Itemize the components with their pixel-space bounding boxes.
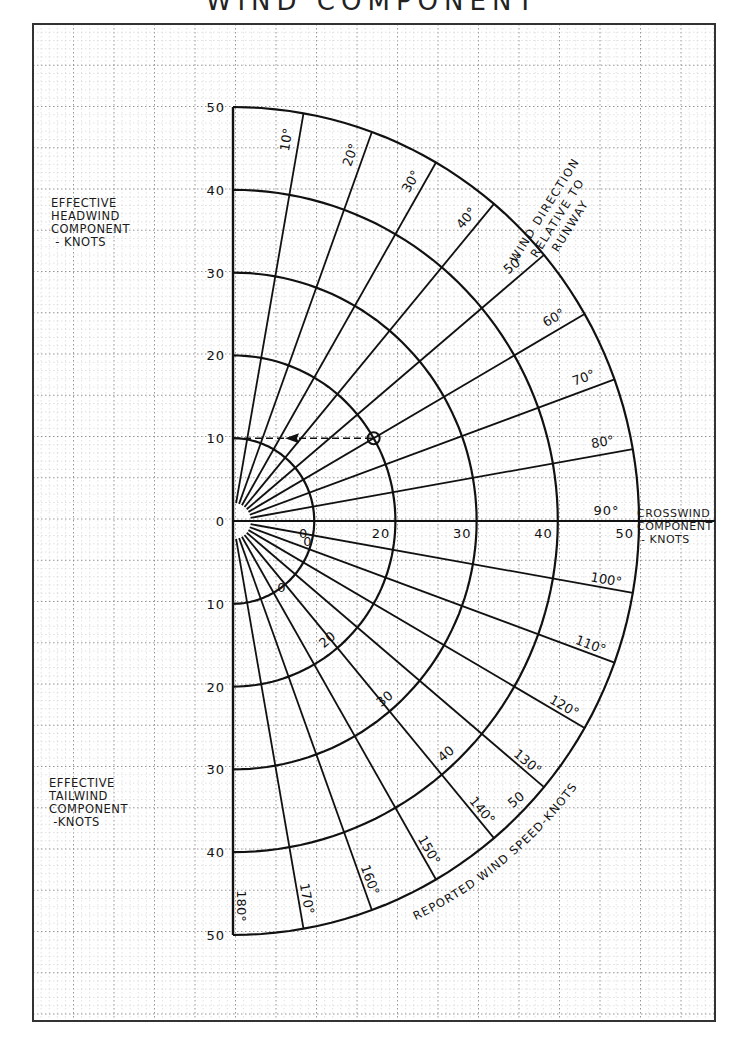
- svg-text:90°: 90°: [594, 503, 620, 518]
- svg-text:0: 0: [216, 514, 225, 529]
- svg-text:20: 20: [206, 680, 225, 695]
- crosswind-axis-label: CROSSWIND COMPONENT - KNOTS: [637, 507, 713, 546]
- wind-component-chart: 01020304050102030405020304050010°20°30°4…: [0, 0, 745, 1042]
- svg-text:10: 10: [206, 597, 225, 612]
- svg-text:30: 30: [373, 688, 395, 710]
- svg-text:50: 50: [206, 100, 225, 115]
- svg-text:50: 50: [615, 526, 634, 541]
- svg-text:10: 10: [206, 431, 225, 446]
- svg-text:40: 40: [206, 845, 225, 860]
- svg-text:20: 20: [316, 629, 338, 651]
- svg-text:50: 50: [505, 789, 527, 811]
- svg-text:70°: 70°: [570, 367, 597, 389]
- svg-text:10°: 10°: [277, 127, 296, 152]
- svg-text:30: 30: [206, 266, 225, 281]
- svg-text:180°: 180°: [234, 890, 249, 921]
- svg-text:40: 40: [206, 183, 225, 198]
- headwind-axis-label: EFFECTIVE HEADWIND COMPONENT - KNOTS: [51, 197, 130, 249]
- svg-text:50: 50: [206, 928, 225, 943]
- svg-text:20: 20: [206, 348, 225, 363]
- svg-text:0: 0: [277, 580, 286, 595]
- svg-text:80°: 80°: [590, 432, 615, 451]
- svg-text:40: 40: [534, 526, 553, 541]
- svg-text:0: 0: [303, 534, 312, 549]
- svg-text:30: 30: [453, 526, 472, 541]
- svg-text:30: 30: [206, 762, 225, 777]
- svg-text:20: 20: [372, 526, 391, 541]
- tailwind-axis-label: EFFECTIVE TAILWIND COMPONENT -KNOTS: [49, 777, 128, 829]
